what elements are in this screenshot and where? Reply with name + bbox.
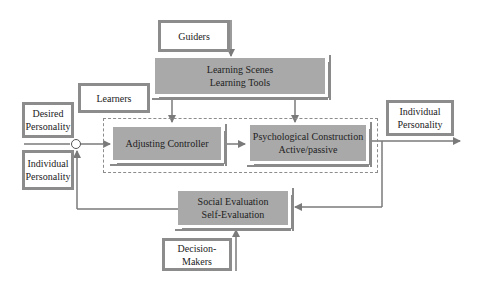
personality-label: Personality <box>398 118 443 131</box>
individual-label: Individual <box>27 157 68 170</box>
self-evaluation-label: Self-Evaluation <box>202 208 265 221</box>
individual-personality-input-box: Individual Personality <box>22 150 74 190</box>
individual-label: Individual <box>399 105 440 118</box>
summing-junction <box>71 139 81 149</box>
active-passive-label: Active/passive <box>279 143 338 156</box>
social-evaluation-label: Social Evaluation <box>198 195 269 208</box>
psychological-construction-label: Psychological Construction <box>253 130 363 143</box>
social-evaluation-box: Social Evaluation Self-Evaluation <box>178 191 288 225</box>
personality-label: Personality <box>26 170 71 183</box>
learning-scenes-label: Learning Scenes <box>207 63 273 76</box>
decision-label: Decision- <box>178 242 217 255</box>
decision-makers-box: Decision- Makers <box>162 238 232 271</box>
makers-label: Makers <box>182 255 212 268</box>
psychological-construction-box: Psychological Construction Active/passiv… <box>250 125 366 161</box>
adjusting-controller-label: Adjusting Controller <box>125 137 208 150</box>
personality-label: Personality <box>26 120 71 133</box>
guiders-label: Guiders <box>178 30 210 43</box>
learning-tools-label: Learning Tools <box>210 76 271 89</box>
adjusting-controller-box: Adjusting Controller <box>113 127 221 160</box>
learners-box: Learners <box>78 83 150 113</box>
learning-scenes-box: Learning Scenes Learning Tools <box>155 58 325 94</box>
guiders-box: Guiders <box>158 20 230 52</box>
desired-personality-box: Desired Personality <box>22 102 74 138</box>
individual-personality-output-box: Individual Personality <box>386 100 454 136</box>
learners-label: Learners <box>97 92 132 105</box>
desired-label: Desired <box>32 107 63 120</box>
